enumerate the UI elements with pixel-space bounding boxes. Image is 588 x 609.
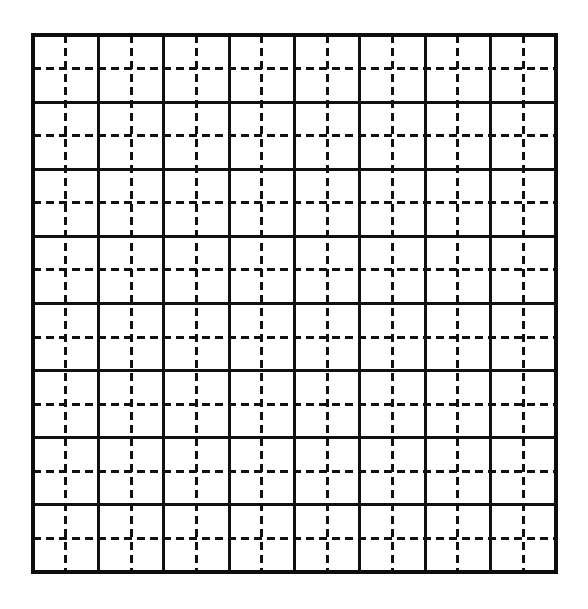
grid-diagram	[0, 0, 588, 609]
figure-canvas	[0, 0, 588, 609]
